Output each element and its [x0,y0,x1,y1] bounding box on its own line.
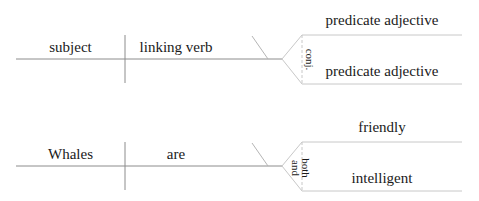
diagram-template: subject linking verb conj. predicate adj… [0,0,479,100]
subject-word: subject [16,40,125,55]
fork-upper [282,35,302,59]
predicate-slash [252,143,268,166]
diagram-example: Whales are both and friendly intelligent [0,107,479,201]
fork-lower [282,59,302,84]
predicate-bottom-word: predicate adjective [302,64,462,79]
subject-word: Whales [16,147,125,162]
predicate-top-word: friendly [302,120,462,135]
predicate-top-word: predicate adjective [302,13,462,28]
conjunction-second-word: and [291,151,301,185]
verb-word: linking verb [126,40,226,55]
predicate-bottom-word: intelligent [302,171,462,186]
predicate-slash [252,36,268,59]
verb-word: are [126,147,226,162]
